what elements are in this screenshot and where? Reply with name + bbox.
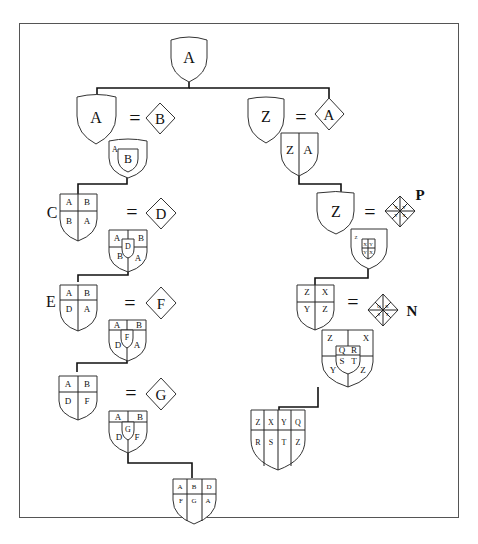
svg-text:D: D [66, 304, 73, 314]
svg-text:A: A [324, 107, 335, 123]
svg-text:Z: Z [304, 287, 310, 297]
svg-text:X: X [394, 205, 398, 210]
svg-text:D: D [125, 242, 131, 251]
svg-text:X: X [363, 242, 367, 247]
svg-text:X: X [369, 250, 373, 255]
svg-text:B: B [84, 288, 90, 298]
left-step1: A = B A B [77, 95, 175, 179]
left-final-shield: A B D F G A [173, 479, 216, 524]
svg-text:=: = [364, 201, 375, 223]
svg-text:A: A [115, 412, 122, 422]
svg-text:Z: Z [296, 438, 301, 447]
svg-text:B: B [192, 483, 197, 491]
svg-text:A: A [114, 320, 121, 330]
svg-text:Y: Y [330, 365, 337, 375]
svg-text:Q: Q [295, 418, 301, 427]
svg-text:Q: Q [339, 345, 346, 355]
right-step3: Z X Y Z = Q R S T N Z X Y Z Q R S T [297, 285, 418, 387]
svg-text:X: X [322, 287, 329, 297]
svg-text:D: D [115, 340, 122, 350]
svg-text:B: B [66, 216, 72, 226]
svg-text:A: A [84, 304, 91, 314]
svg-text:S: S [378, 312, 381, 317]
svg-text:A: A [66, 197, 73, 207]
svg-text:T: T [282, 438, 287, 447]
svg-text:A: A [114, 233, 121, 243]
svg-text:B: B [84, 379, 90, 389]
svg-text:=: = [126, 201, 137, 223]
svg-text:=: = [125, 382, 136, 404]
svg-text:A: A [66, 288, 73, 298]
svg-text:R: R [255, 438, 261, 447]
svg-text:Y: Y [402, 205, 406, 210]
svg-text:B: B [137, 412, 143, 422]
svg-text:Y: Y [304, 304, 311, 314]
svg-text:T: T [351, 356, 357, 366]
svg-text:A: A [84, 216, 91, 226]
svg-text:F: F [84, 396, 89, 406]
svg-text:F: F [134, 432, 139, 442]
svg-text:R: R [351, 345, 357, 355]
svg-text:Z: Z [360, 365, 366, 375]
right-step1: Z = A Z A [248, 97, 344, 176]
svg-text:=: = [129, 107, 140, 129]
svg-text:G: G [125, 425, 131, 434]
svg-text:B: B [84, 197, 90, 207]
svg-text:A: A [134, 340, 141, 350]
svg-text:A: A [205, 497, 210, 505]
svg-text:B: B [124, 152, 132, 166]
svg-text:Y: Y [281, 418, 287, 427]
svg-text:P: P [415, 187, 424, 203]
svg-text:N: N [407, 303, 418, 319]
svg-text:X: X [402, 213, 406, 218]
svg-text:A: A [135, 253, 142, 263]
svg-text:D: D [156, 206, 167, 222]
svg-text:G: G [191, 497, 196, 505]
svg-text:Z: Z [354, 235, 357, 240]
svg-text:T: T [385, 312, 388, 317]
svg-text:Z: Z [261, 108, 271, 125]
root-shield: A [171, 37, 207, 82]
svg-text:B: B [155, 111, 165, 127]
svg-text:G: G [156, 387, 167, 403]
svg-text:F: F [157, 296, 165, 312]
svg-text:Y: Y [394, 213, 398, 218]
svg-text:Y: Y [363, 250, 367, 255]
svg-text:B: B [138, 233, 144, 243]
heraldry-tree-diagram: A A = B A B C A B B A = D A B B A D E [0, 0, 478, 544]
svg-text:C: C [47, 204, 58, 221]
svg-text:Z: Z [256, 418, 261, 427]
svg-text:A: A [90, 109, 102, 126]
svg-text:A: A [303, 142, 313, 157]
svg-text:A: A [112, 145, 118, 154]
svg-text:Z: Z [327, 333, 333, 343]
svg-text:F: F [125, 333, 130, 342]
svg-text:Y: Y [369, 242, 373, 247]
svg-text:=: = [347, 291, 358, 313]
svg-text:D: D [206, 483, 211, 491]
svg-text:X: X [268, 418, 274, 427]
svg-text:A: A [65, 379, 72, 389]
svg-text:=: = [295, 106, 306, 128]
svg-text:D: D [65, 396, 72, 406]
svg-text:E: E [46, 293, 56, 310]
svg-text:X: X [363, 333, 370, 343]
svg-text:D: D [116, 432, 123, 442]
left-step4: A B D F = G A B D F G [59, 376, 176, 453]
svg-text:B: B [117, 251, 123, 261]
svg-text:Q: Q [377, 304, 381, 309]
svg-text:S: S [269, 438, 273, 447]
svg-text:Z: Z [331, 203, 341, 220]
svg-text:=: = [124, 292, 135, 314]
svg-text:F: F [179, 497, 183, 505]
svg-text:S: S [339, 356, 344, 366]
svg-text:Z: Z [286, 142, 294, 157]
svg-text:B: B [136, 320, 142, 330]
svg-text:A: A [177, 483, 182, 491]
svg-text:Z: Z [322, 304, 328, 314]
left-step2: C A B B A = D A B B A D [47, 194, 176, 272]
right-step2: Z = X Y Y X P Z X Y Y X [317, 187, 425, 269]
left-step3: E A B D A = F A B D A F [46, 285, 176, 361]
root-shield-label: A [183, 49, 195, 66]
right-final-shield: Z X Y Q R S T Z [251, 410, 305, 470]
